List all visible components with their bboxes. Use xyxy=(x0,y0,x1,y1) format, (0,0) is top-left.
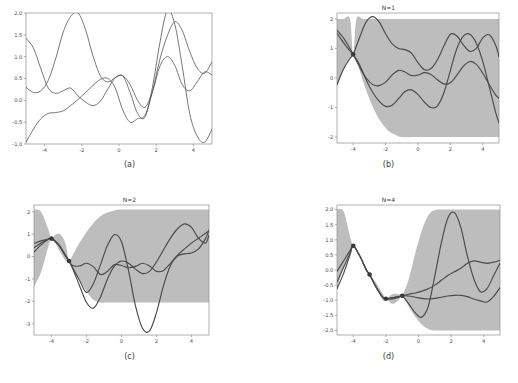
y-tick-label: 2.0 xyxy=(325,206,333,212)
y-tick-label: -3 xyxy=(25,321,30,327)
observation-point xyxy=(351,52,356,57)
observation-point xyxy=(400,293,405,298)
x-tick-label: 0 xyxy=(117,147,120,153)
x-tick-label: 0 xyxy=(417,338,420,344)
observation-point xyxy=(67,259,72,264)
x-tick-label: -2 xyxy=(79,147,84,153)
observation-point xyxy=(384,296,389,301)
x-tick-label: -4 xyxy=(351,338,357,344)
x-tick-label: -4 xyxy=(42,147,48,153)
x-tick-label: -2 xyxy=(84,338,89,344)
y-tick-label: -2.0 xyxy=(323,327,333,333)
x-tick-label: 4 xyxy=(190,338,194,344)
panel-a-caption: (a) xyxy=(0,160,259,169)
panel-d: N=4 -2.0-1.5-1.0-0.50.00.51.01.52.0-4-20… xyxy=(259,192,518,383)
y-tick-label: 2 xyxy=(27,209,30,215)
curves-group xyxy=(26,10,212,143)
y-tick-label: 2 xyxy=(330,16,333,22)
y-tick-label: -1.5 xyxy=(323,312,333,318)
x-tick-label: 4 xyxy=(482,338,486,344)
x-tick-label: 2 xyxy=(449,338,452,344)
observation-point xyxy=(367,272,372,277)
figure-gaussian-process-panels: -1.0-0.50.00.51.01.52.0-4-2024 (a) N=1 -… xyxy=(0,0,518,383)
y-tick-label: 2.0 xyxy=(14,10,22,16)
panel-c-caption: (c) xyxy=(0,352,259,361)
y-tick-label: 1 xyxy=(330,45,333,51)
panel-a-plot: -1.0-0.50.00.51.01.52.0-4-2024 xyxy=(0,6,259,166)
x-tick-label: 4 xyxy=(192,147,196,153)
y-tick-label: 0.5 xyxy=(14,75,22,81)
confidence-band xyxy=(337,209,500,331)
observation-point xyxy=(351,244,356,249)
y-tick-label: -1 xyxy=(328,104,333,110)
y-tick-label: 0.0 xyxy=(14,97,22,103)
y-tick-label: 0.0 xyxy=(325,267,333,273)
observation-point xyxy=(49,236,54,241)
panel-b: N=1 -2-1012-4-2024 (b) xyxy=(259,0,518,192)
x-tick-label: 0 xyxy=(416,146,419,152)
x-tick-label: -2 xyxy=(383,146,388,152)
x-tick-label: 2 xyxy=(155,338,158,344)
y-tick-label: 1.0 xyxy=(14,54,22,60)
panel-b-plot: -2-1012-4-2024 xyxy=(259,6,518,166)
y-tick-label: -2 xyxy=(25,298,30,304)
y-tick-label: 1.5 xyxy=(325,222,333,228)
prior-sample-3 xyxy=(26,22,212,143)
y-tick-label: -0.5 xyxy=(12,119,22,125)
y-tick-label: 1.5 xyxy=(14,32,22,38)
y-tick-label: -1.0 xyxy=(323,297,333,303)
panel-c-plot: -3-2-1012-4-2024 xyxy=(0,198,259,358)
confidence-band xyxy=(34,209,209,302)
x-tick-label: -2 xyxy=(383,338,388,344)
x-tick-label: 2 xyxy=(449,146,452,152)
prior-sample-1 xyxy=(26,38,212,107)
y-tick-label: 0 xyxy=(27,253,30,259)
x-tick-label: -4 xyxy=(49,338,55,344)
prior-sample-2 xyxy=(26,10,212,143)
x-tick-label: -4 xyxy=(351,146,357,152)
panel-c: N=2 -3-2-1012-4-2024 (c) xyxy=(0,192,259,383)
x-tick-label: 0 xyxy=(120,338,123,344)
y-tick-label: -0.5 xyxy=(323,282,333,288)
panel-a: -1.0-0.50.00.51.01.52.0-4-2024 (a) xyxy=(0,0,259,192)
y-tick-label: 1.0 xyxy=(325,237,333,243)
panel-b-caption: (b) xyxy=(259,160,518,169)
y-tick-label: -1.0 xyxy=(12,141,22,147)
y-tick-label: 0.5 xyxy=(325,252,333,258)
y-tick-label: -1 xyxy=(25,276,30,282)
x-tick-label: 4 xyxy=(481,146,485,152)
y-tick-label: -2 xyxy=(328,134,333,140)
y-tick-label: 0 xyxy=(330,75,333,81)
y-tick-label: 1 xyxy=(27,231,30,237)
panel-d-caption: (d) xyxy=(259,352,518,361)
x-tick-label: 2 xyxy=(155,147,158,153)
panel-d-plot: -2.0-1.5-1.0-0.50.00.51.01.52.0-4-2024 xyxy=(259,198,518,358)
